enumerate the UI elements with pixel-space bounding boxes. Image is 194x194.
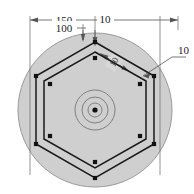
bolt-marker xyxy=(93,40,97,44)
center-dot xyxy=(92,107,97,112)
dimension-100-label: 100 xyxy=(56,22,73,34)
bolt-marker xyxy=(93,56,97,60)
bolt-marker xyxy=(93,176,97,180)
bolt-marker xyxy=(34,74,38,78)
bolt-marker xyxy=(93,160,97,164)
arrow-left-icon xyxy=(30,18,38,23)
bolt-marker xyxy=(138,82,142,86)
dimension-100: 100 xyxy=(51,21,86,34)
bolt-marker xyxy=(152,142,156,146)
leader-callout-label: 10 xyxy=(178,44,190,56)
bolt-marker xyxy=(138,134,142,138)
bolt-marker xyxy=(152,74,156,78)
bolt-marker xyxy=(48,82,52,86)
dimension-10-top: 10 xyxy=(97,12,114,25)
arrow-right-icon xyxy=(170,18,178,23)
dimension-10-top-label: 10 xyxy=(100,13,112,25)
drawing-canvas: 150 100 10 10 xyxy=(0,0,194,194)
bolt-marker xyxy=(34,142,38,146)
technical-drawing-svg: 150 100 10 10 xyxy=(0,0,194,194)
bolt-marker xyxy=(48,134,52,138)
